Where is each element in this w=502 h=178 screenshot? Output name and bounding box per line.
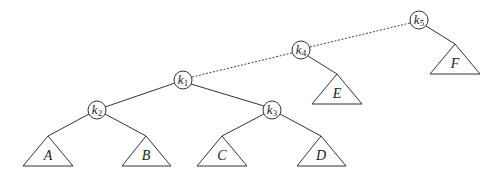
edge-k3-D [280,114,321,136]
node-k5: k5 [410,11,428,29]
subtree-E: E [312,74,362,104]
subtree-label-E: E [332,86,342,101]
node-subscript: 2 [98,108,103,118]
edges [48,23,455,136]
edge-k1-k2 [105,83,175,107]
edge-k1-k4-dashed [192,53,292,77]
edge-k3-C [222,114,264,136]
node-k2: k2 [88,101,106,119]
edge-k4-E [308,56,337,74]
subtree-label-F: F [450,56,460,71]
edge-k4-k5-dashed [310,23,410,47]
subtree-B: B [122,136,171,166]
edge-k5-F [426,26,455,44]
edge-k1-k3 [191,84,264,106]
subtree-A: A [23,136,73,166]
node-subscript: 3 [273,108,278,118]
subtree-F: F [430,44,480,74]
subtree-C: C [197,136,247,166]
subtree-label-D: D [315,148,326,163]
subtree-label-A: A [43,148,53,163]
tree-diagram: A B C D E F k1 k2 k3 [0,0,502,178]
edge-k2-A [48,114,89,136]
node-k3: k3 [263,101,281,119]
node-k4: k4 [292,41,310,59]
node-subscript: 5 [420,18,425,28]
edge-k2-B [105,114,146,136]
node-k1: k1 [174,71,192,89]
subtree-label-B: B [142,148,151,163]
subtree-D: D [297,136,346,166]
node-subscript: 1 [184,78,189,88]
subtree-label-C: C [217,148,227,163]
node-subscript: 4 [302,48,307,58]
